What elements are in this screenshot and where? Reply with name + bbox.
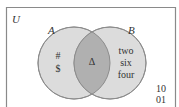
set-a-element: # <box>56 50 61 61</box>
set-b-element: two <box>119 45 134 56</box>
set-b-element: four <box>118 69 135 80</box>
venn-canvas: U A B # $ Δ two six four 10 01 <box>0 0 179 107</box>
universe-label: U <box>12 13 21 25</box>
set-b-label: B <box>128 24 135 36</box>
intersection-element: Δ <box>89 56 96 67</box>
set-a-label: A <box>47 24 55 36</box>
outside-element: 10 <box>156 83 166 94</box>
set-b-element: six <box>120 57 132 68</box>
venn-diagram: U A B # $ Δ two six four 10 01 <box>0 0 179 107</box>
outside-element: 01 <box>156 94 166 105</box>
set-a-element: $ <box>56 63 61 74</box>
